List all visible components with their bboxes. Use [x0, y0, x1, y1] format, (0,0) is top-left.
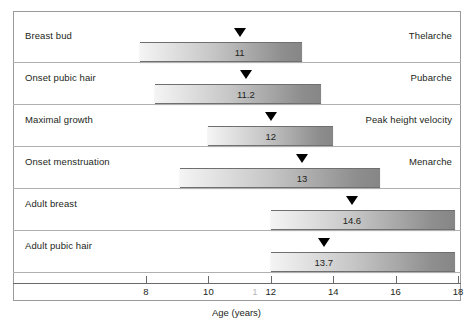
row-label-right: Menarche — [409, 156, 452, 167]
row-label-left: Maximal growth — [25, 114, 93, 125]
row-separator — [13, 272, 461, 273]
stray-tick-digit: 1 — [252, 286, 257, 297]
row-label-left: Adult breast — [25, 198, 77, 209]
mean-age-marker-icon — [265, 112, 277, 121]
mean-age-marker-icon — [318, 238, 330, 247]
row-separator — [13, 146, 461, 147]
milestone-row: Adult pubic hair13.7 — [13, 235, 461, 277]
range-bar: 14.6 — [271, 210, 455, 230]
row-label-right: Thelarche — [409, 30, 452, 41]
x-tick — [271, 276, 272, 284]
milestone-row: Onset pubic hairPubarche11.2 — [13, 67, 461, 109]
bar-mean-value: 14.6 — [343, 215, 362, 226]
row-label-left: Onset pubic hair — [25, 72, 96, 83]
row-label-right: Pubarche — [411, 72, 452, 83]
row-separator — [13, 188, 461, 189]
milestone-row: Onset menstruationMenarche13 — [13, 151, 461, 193]
bar-mean-value: 11.2 — [237, 89, 255, 100]
milestone-row: Breast budThelarche11 — [13, 25, 461, 67]
puberty-milestones-chart: Breast budThelarche11Onset pubic hairPub… — [0, 0, 473, 334]
row-separator — [13, 62, 461, 63]
row-label-left: Breast bud — [25, 30, 72, 41]
x-axis-line — [13, 283, 461, 284]
mean-age-marker-icon — [234, 28, 246, 37]
mean-age-marker-icon — [346, 196, 358, 205]
x-tick — [458, 276, 459, 284]
row-separator — [13, 104, 461, 105]
range-bar: 11 — [140, 42, 302, 62]
bar-mean-value: 13 — [297, 173, 308, 184]
mean-age-marker-icon — [296, 154, 308, 163]
x-tick-label: 16 — [390, 286, 401, 297]
range-bar: 13.7 — [271, 252, 455, 272]
milestone-row: Maximal growthPeak height velocity12 — [13, 109, 461, 151]
x-tick-label: 8 — [143, 286, 148, 297]
bar-mean-value: 13.7 — [315, 257, 334, 268]
x-tick-label: 12 — [266, 286, 277, 297]
row-label-left: Adult pubic hair — [25, 240, 92, 251]
x-tick — [146, 276, 147, 284]
x-tick-label: 18 — [453, 286, 464, 297]
bar-mean-value: 11 — [235, 47, 245, 58]
x-tick — [396, 276, 397, 284]
bar-mean-value: 12 — [265, 131, 276, 142]
range-bar: 12 — [208, 126, 333, 146]
row-label-right: Peak height velocity — [366, 114, 453, 125]
x-tick-label: 10 — [203, 286, 214, 297]
x-axis-title: Age (years) — [0, 307, 473, 318]
row-label-left: Onset menstruation — [25, 156, 110, 167]
range-bar: 11.2 — [155, 84, 320, 104]
x-tick — [208, 276, 209, 284]
row-separator — [13, 230, 461, 231]
range-bar: 13 — [180, 168, 380, 188]
x-tick-label: 14 — [328, 286, 339, 297]
mean-age-marker-icon — [240, 70, 252, 79]
milestone-row: Adult breast14.6 — [13, 193, 461, 235]
x-tick — [333, 276, 334, 284]
